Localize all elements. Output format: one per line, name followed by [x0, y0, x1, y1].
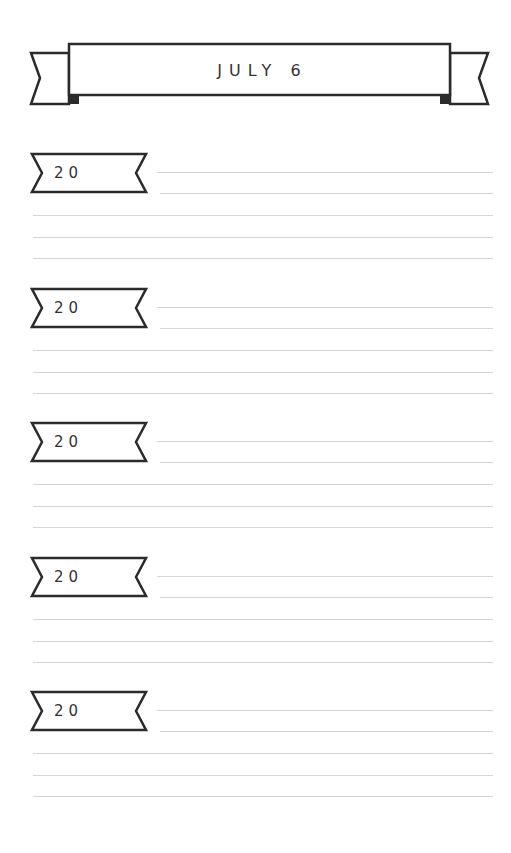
writing-line[interactable]: [33, 662, 493, 663]
date-banner: JULY 6: [0, 0, 511, 120]
year-entry: 20: [0, 556, 511, 676]
writing-line[interactable]: [33, 753, 493, 754]
writing-line[interactable]: [33, 372, 493, 373]
writing-line[interactable]: [160, 328, 493, 329]
ribbon-tag-icon: [30, 690, 148, 732]
writing-line[interactable]: [33, 484, 493, 485]
year-entry: 20: [0, 690, 511, 810]
page-title: JULY 6: [69, 45, 450, 95]
writing-line[interactable]: [157, 576, 493, 577]
writing-line[interactable]: [33, 237, 493, 238]
writing-line[interactable]: [157, 441, 493, 442]
writing-line[interactable]: [157, 710, 493, 711]
writing-line[interactable]: [33, 215, 493, 216]
writing-line[interactable]: [33, 641, 493, 642]
year-entry: 20: [0, 421, 511, 541]
year-prefix: 20: [54, 690, 83, 732]
writing-line[interactable]: [33, 350, 493, 351]
year-tag: 20: [30, 690, 148, 732]
writing-line[interactable]: [33, 506, 493, 507]
year-prefix: 20: [54, 421, 83, 463]
writing-line[interactable]: [157, 307, 493, 308]
ribbon-tag-icon: [30, 152, 148, 194]
writing-line[interactable]: [33, 619, 493, 620]
year-tag: 20: [30, 287, 148, 329]
year-prefix: 20: [54, 152, 83, 194]
writing-line[interactable]: [33, 775, 493, 776]
writing-line[interactable]: [157, 172, 493, 173]
ribbon-tag-icon: [30, 287, 148, 329]
year-tag: 20: [30, 421, 148, 463]
writing-line[interactable]: [160, 462, 493, 463]
year-prefix: 20: [54, 556, 83, 598]
writing-line[interactable]: [33, 393, 493, 394]
year-entry: 20: [0, 152, 511, 272]
ribbon-tag-icon: [30, 556, 148, 598]
writing-line[interactable]: [160, 731, 493, 732]
year-tag: 20: [30, 152, 148, 194]
writing-line[interactable]: [160, 193, 493, 194]
year-tag: 20: [30, 556, 148, 598]
writing-line[interactable]: [33, 796, 493, 797]
writing-line[interactable]: [160, 597, 493, 598]
writing-line[interactable]: [33, 527, 493, 528]
year-prefix: 20: [54, 287, 83, 329]
ribbon-tag-icon: [30, 421, 148, 463]
writing-line[interactable]: [33, 258, 493, 259]
year-entry: 20: [0, 287, 511, 407]
